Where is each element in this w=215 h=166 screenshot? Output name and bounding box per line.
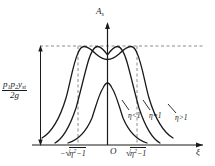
y-axis-label-subscript: s xyxy=(102,11,104,17)
x-axis-label: ξ xyxy=(196,148,200,157)
x-tick-left-rest: −1 xyxy=(76,149,85,158)
amplitude-scale-label: p1p2yst 2g xyxy=(2,80,27,101)
amplitude-scale-denominator: 2g xyxy=(2,91,27,100)
denominator-g: g xyxy=(15,90,20,100)
amplitude-response-figure: As ξ O −√η2−1 √η2−1 p1p2yst 2g η<1 η=1 η… xyxy=(0,0,215,166)
x-tick-right-rest: −1 xyxy=(137,149,146,158)
curve-label-eta-eq-1: η=1 xyxy=(149,112,162,120)
x-tick-label-left: −√η2−1 xyxy=(60,147,86,158)
plot-canvas xyxy=(0,0,215,166)
curve-label-eta-lt-1: η<1 xyxy=(128,112,141,120)
leader-eta-eq-1 xyxy=(143,100,150,110)
x-tick-label-right: √η2−1 xyxy=(126,147,146,158)
x-tick-left-radical: √η2−1 xyxy=(65,147,85,158)
leader-eta-lt-1 xyxy=(122,100,129,110)
y-axis-label: As xyxy=(96,7,104,17)
y-axis-arrowhead xyxy=(105,22,110,29)
origin-label: O xyxy=(110,147,117,156)
leader-eta-gt-1 xyxy=(168,104,176,113)
curve-label-eta-gt-1: η>1 xyxy=(175,114,188,122)
numerator-y-sub: st xyxy=(22,84,26,90)
x-tick-right-radical: √η2−1 xyxy=(126,147,146,158)
